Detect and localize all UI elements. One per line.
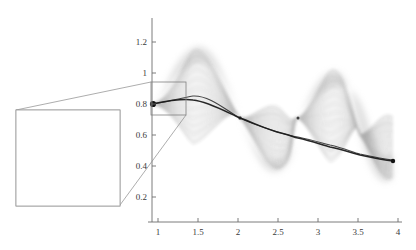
x-tick-label-2_5: 2.5 <box>272 227 284 237</box>
inset-panel <box>16 110 120 206</box>
node-marker-x3 <box>297 117 300 120</box>
y-tick-label-1: 1 <box>143 68 148 78</box>
inset-frame-overlay <box>16 110 120 206</box>
figure-panel: 1.2 1 0.8 0.6 0.4 0.2 1 1.5 2 2.5 3 3.5 … <box>0 0 416 250</box>
node-marker-x4 <box>391 159 395 163</box>
x-tick-label-1_5: 1.5 <box>192 227 204 237</box>
y-tick-label-1_2: 1.2 <box>136 37 147 47</box>
x-tick-label-1: 1 <box>156 227 161 237</box>
x-tick-label-2: 2 <box>236 227 241 237</box>
x-tick-label-4: 4 <box>396 227 401 237</box>
x-tick-label-3_5: 3.5 <box>352 227 364 237</box>
node-marker-x2 <box>238 116 241 119</box>
y-tick-label-0_6: 0.6 <box>136 130 148 140</box>
y-tick-label-0_2: 0.2 <box>136 192 147 202</box>
trajectory-ensemble-chart: 1.2 1 0.8 0.6 0.4 0.2 1 1.5 2 2.5 3 3.5 … <box>0 0 416 250</box>
y-tick-label-0_8: 0.8 <box>136 99 148 109</box>
x-tick-label-3: 3 <box>316 227 321 237</box>
